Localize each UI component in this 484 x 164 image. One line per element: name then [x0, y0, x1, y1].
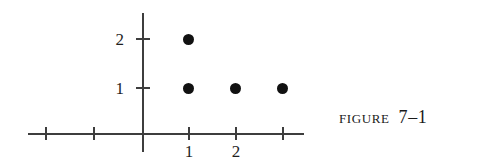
x-axis-tick	[282, 127, 284, 140]
x-axis-tick	[235, 127, 237, 140]
data-point	[183, 83, 194, 94]
x-axis-tick-label: 2	[226, 143, 246, 160]
x-axis-line	[28, 133, 304, 135]
y-axis-line	[142, 13, 144, 152]
data-point	[277, 83, 288, 94]
y-axis-tick-label: 1	[104, 80, 124, 97]
figure-caption-number: 7–1	[399, 107, 428, 127]
x-axis-tick	[45, 127, 47, 140]
figure-caption-word: Figure	[339, 107, 390, 127]
y-axis-tick	[136, 38, 150, 40]
x-axis-tick	[188, 127, 190, 140]
y-axis-tick-label: 2	[104, 31, 124, 48]
x-axis-tick	[93, 127, 95, 140]
y-axis-tick	[136, 87, 150, 89]
scatter-plot: 12 21	[0, 0, 320, 164]
data-point	[183, 34, 194, 45]
figure-container: 12 21 Figure7–1	[0, 0, 484, 164]
x-axis-tick-label: 1	[179, 143, 199, 160]
data-point	[230, 83, 241, 94]
figure-caption: Figure7–1	[339, 107, 427, 128]
